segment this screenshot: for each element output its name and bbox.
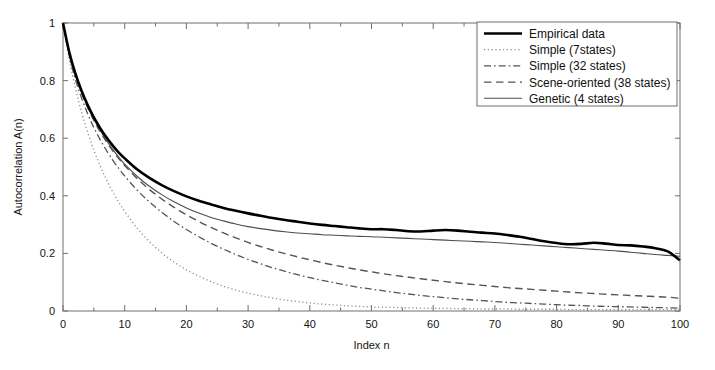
- autocorrelation-chart: 00.20.40.60.81 0102030405060708090100 In…: [0, 0, 715, 370]
- legend-label-2: Simple (7states): [529, 43, 616, 57]
- x-tick-label: 100: [671, 318, 689, 330]
- y-tick-label: 0: [49, 305, 55, 317]
- legend-label-4: Scene-oriented (38 states): [529, 76, 670, 90]
- x-tick-label: 90: [612, 318, 624, 330]
- y-tick-label: 0.4: [40, 190, 55, 202]
- x-tick-label: 40: [304, 318, 316, 330]
- x-axis-title: Index n: [353, 339, 389, 351]
- x-tick-label: 10: [119, 318, 131, 330]
- legend-label-3: Simple (32 states): [529, 59, 626, 73]
- x-tick-label: 50: [365, 318, 377, 330]
- legend-label-1: Empirical data: [529, 27, 605, 41]
- x-tick-label: 70: [489, 318, 501, 330]
- x-tick-label: 80: [550, 318, 562, 330]
- legend-label-5: Genetic (4 states): [529, 92, 624, 106]
- autocorrelation-figure: 00.20.40.60.81 0102030405060708090100 In…: [0, 0, 715, 370]
- y-tick-label: 0.8: [40, 75, 55, 87]
- x-tick-label: 30: [242, 318, 254, 330]
- chart-legend: Empirical dataSimple (7states)Simple (32…: [477, 22, 677, 106]
- x-tick-label: 60: [427, 318, 439, 330]
- x-tick-label: 20: [180, 318, 192, 330]
- x-tick-label: 0: [60, 318, 66, 330]
- y-axis-title: Autocorrelation A(n): [12, 118, 24, 215]
- y-tick-label: 1: [49, 17, 55, 29]
- y-tick-label: 0.6: [40, 132, 55, 144]
- y-tick-label: 0.2: [40, 247, 55, 259]
